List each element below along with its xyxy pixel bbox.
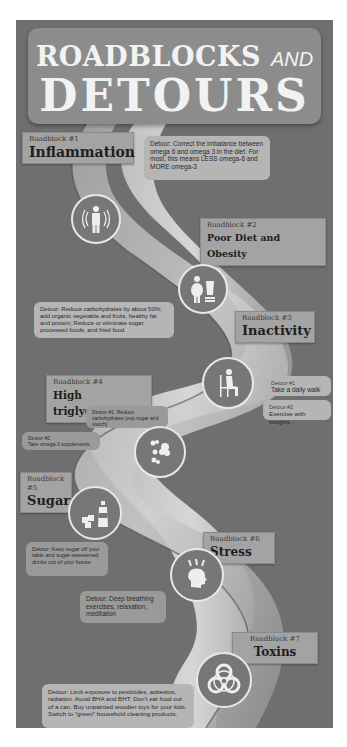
roadblock-2-label: Roadblock #2 Poor Diet and Obesity	[200, 218, 326, 266]
roadblock-title: Poor Diet and Obesity	[207, 230, 319, 262]
stressed-head-icon	[170, 548, 224, 602]
roadblock-6-detour: Detour: Deep breathing exercises, relaxa…	[80, 591, 166, 623]
detour-text: Take omega-3 supplements	[28, 442, 94, 448]
roadblock-title: Inflammation	[29, 144, 127, 160]
sitting-person-glyph	[210, 365, 246, 401]
winding-road-graphic	[16, 20, 333, 728]
roadblock-4-detour-2: Detour #2 Take omega-3 supplements	[22, 432, 100, 450]
detour-text: Detour: Keep sugar off your table and su…	[32, 546, 99, 565]
roadblock-title: Inactivity	[242, 323, 308, 339]
detour-text: Detour: Limit exposure to pesticides, as…	[48, 688, 187, 717]
infographic-frame: ROADBLOCKS AND DETOURS Roadblock #1 Infl…	[16, 20, 333, 728]
roadblock-title: Toxins	[239, 644, 311, 660]
roadblock-5-label: Roadblock #5 Sugar	[20, 472, 72, 513]
detour-text: Exercise with weights	[269, 410, 325, 425]
detour-text: Take a daily walk	[271, 386, 325, 394]
sugar-drink-glyph	[77, 495, 113, 531]
obese-person-drink-icon	[178, 264, 228, 314]
title-roadblocks: ROADBLOCKS	[36, 41, 261, 72]
roadblock-number: Roadblock #1	[29, 135, 127, 144]
detour-text: Detour: Reduce carbohydrates by about 50…	[40, 306, 162, 333]
roadblock-4-detour-1: Detour #1: Reduce carbohydrates (esp sug…	[86, 406, 168, 428]
biohazard-glyph	[204, 660, 244, 700]
roadblock-title: Stress	[210, 544, 268, 560]
roadblock-number: Roadblock #6	[210, 535, 268, 544]
roadblock-3-label: Roadblock #3 Inactivity	[235, 311, 315, 343]
sugar-cubes-bottle-icon	[68, 486, 122, 540]
diet-obesity-glyph	[185, 271, 221, 307]
roadblock-3-detour-2: Detour #2 Exercise with weights	[263, 400, 331, 420]
head-stress-glyph	[179, 557, 215, 593]
roadblock-5-detour: Detour: Keep sugar off your table and su…	[26, 542, 108, 576]
roadblock-number: Roadblock #2	[207, 221, 319, 230]
detour-text: Detour: Correct the imbalance between om…	[150, 140, 263, 170]
person-waves-glyph	[77, 200, 115, 238]
roadblock-7-detour: Detour: Limit exposure to pesticides, as…	[42, 684, 194, 728]
roadblock-number: Roadblock #5	[27, 475, 65, 493]
seated-person-icon	[202, 357, 254, 409]
title-line-2: DETOURS	[28, 72, 321, 120]
roadblock-1-label: Roadblock #1 Inflammation	[22, 132, 134, 164]
radiating-person-icon	[71, 194, 121, 244]
roadblock-title: Sugar	[27, 493, 65, 509]
title-and: AND	[271, 48, 313, 70]
biohazard-icon	[196, 652, 252, 708]
title-banner: ROADBLOCKS AND DETOURS	[28, 28, 321, 124]
roadblock-number: Roadblock #3	[242, 314, 308, 323]
roadblock-number: Roadblock #7	[239, 635, 311, 644]
roadblock-3-detour-1: Detour #1 Take a daily walk	[265, 376, 331, 396]
roadblock-7-label: Roadblock #7 Toxins	[232, 632, 318, 664]
fat-globules-glyph	[143, 435, 177, 469]
roadblock-2-detour: Detour: Reduce carbohydrates by about 50…	[34, 302, 174, 338]
roadblock-1-detour: Detour: Correct the imbalance between om…	[144, 136, 270, 180]
detour-text: Detour: Deep breathing exercises, relaxa…	[86, 595, 154, 617]
roadblock-number: Roadblock #4	[53, 378, 145, 387]
molecule-bubbles-icon	[134, 426, 186, 478]
